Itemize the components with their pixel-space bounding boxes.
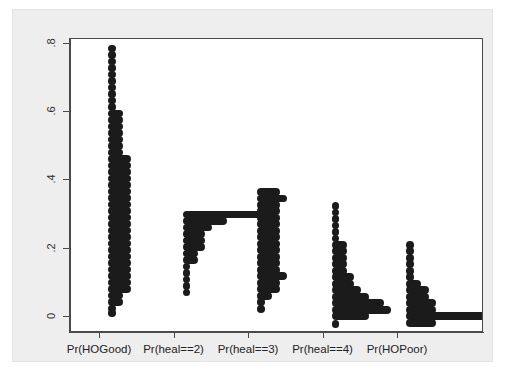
y-tick-label: .6 (45, 101, 57, 121)
graph-canvas: 0.2.4.6.8 Pr(HOGood)Pr(heal==2)Pr(heal==… (12, 9, 493, 362)
y-tick-mark (63, 248, 69, 249)
y-tick-label: .2 (45, 238, 57, 258)
x-tick-mark (323, 333, 324, 338)
dot-marker (108, 309, 116, 317)
y-tick-label: .4 (45, 169, 57, 189)
y-axis-line (69, 38, 70, 333)
y-tick-mark (63, 111, 69, 112)
x-tick-mark (99, 333, 100, 338)
dot-marker (257, 305, 265, 313)
y-tick-label: 0 (45, 306, 57, 326)
dot-marker (332, 320, 340, 328)
x-tick-mark (248, 333, 249, 338)
dot-marker (183, 289, 191, 297)
figure-container: 0.2.4.6.8 Pr(HOGood)Pr(heal==2)Pr(heal==… (0, 0, 505, 373)
y-tick-mark (63, 179, 69, 180)
dot-marker-row (332, 312, 369, 320)
dot-marker-row (406, 319, 436, 327)
x-tick-mark (174, 333, 175, 338)
x-axis-line (69, 332, 484, 333)
y-tick-mark (63, 316, 69, 317)
x-tick-label: Pr(HOPoor) (342, 343, 452, 355)
y-tick-mark (63, 43, 69, 44)
y-tick-label: .8 (45, 33, 57, 53)
plot-region (70, 38, 483, 332)
x-tick-mark (397, 333, 398, 338)
dot-plot-markers (71, 39, 482, 331)
